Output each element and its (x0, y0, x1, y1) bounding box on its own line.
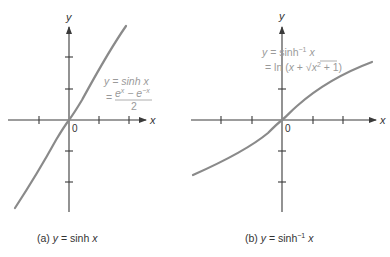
equation-a-denominator: 2 (131, 100, 137, 112)
origin-label-b: 0 (285, 123, 291, 134)
x-axis-label-b: x (379, 114, 386, 126)
y-axis-label-a: y (65, 11, 73, 23)
equation-a-equals: = (106, 91, 112, 103)
x-axis-label-a: x (149, 114, 156, 126)
equation-a-line1: y = sinh x (103, 75, 149, 87)
caption-b: (b) y = sinh−1 x (245, 232, 314, 244)
equation-a-numerator: ex − e−x (115, 87, 150, 99)
panel-b-asinh: y x 0 y = sinh−1 x = ln (x + √x2 + 1) (b… (191, 10, 386, 244)
hyperbolic-figure: y x 0 y = sinh x = ex − e−x 2 (a) y = si… (0, 0, 390, 257)
equation-b-line2: = ln (x + √x2 + 1) (265, 61, 342, 73)
caption-a: (a) y = sinh x (37, 232, 98, 244)
origin-label-a: 0 (72, 123, 78, 134)
sinh-curve (15, 26, 126, 208)
equation-b-line1: y = sinh−1 x (261, 46, 315, 58)
equation-b: y = sinh−1 x = ln (x + √x2 + 1) (261, 46, 342, 73)
equation-a: y = sinh x = ex − e−x 2 (103, 75, 152, 112)
y-axis-label-b: y (278, 10, 286, 22)
panel-a-sinh: y x 0 y = sinh x = ex − e−x 2 (a) y = si… (8, 11, 156, 244)
